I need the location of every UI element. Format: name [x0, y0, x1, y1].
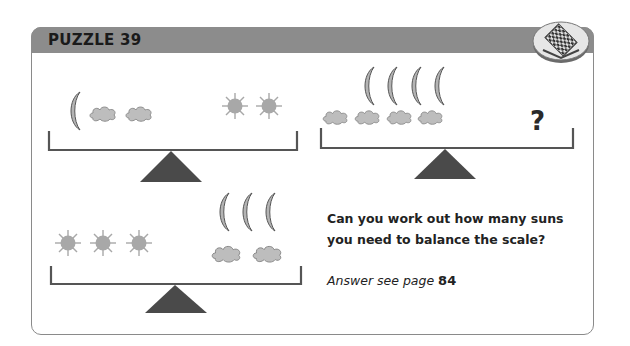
answer-reference: Answer see page 84: [327, 273, 456, 288]
cloud-icon: [355, 111, 379, 124]
cloud-icon: [90, 107, 115, 121]
scale-3: [51, 193, 301, 313]
moon-icon: [266, 193, 275, 231]
cloud-icon: [323, 111, 347, 124]
sun-icon: [55, 230, 81, 256]
cloud-icon: [126, 107, 151, 121]
moon-icon: [435, 67, 444, 105]
cloud-icon: [387, 111, 411, 124]
answer-page-number: 84: [438, 273, 456, 288]
sun-icon: [256, 93, 282, 119]
moon-icon: [412, 67, 421, 105]
sun-icon: [126, 230, 152, 256]
moon-icon: [220, 193, 229, 231]
moon-icon: [365, 67, 374, 105]
puzzle-scales: [0, 0, 630, 346]
moon-icon: [388, 67, 397, 105]
sun-icon: [90, 230, 116, 256]
cloud-icon: [418, 111, 442, 124]
unknown-suns-marker: ?: [530, 106, 545, 136]
answer-prefix: Answer see page: [327, 273, 434, 288]
sun-icon: [222, 93, 248, 119]
cloud-icon: [253, 246, 281, 262]
scale-1: [49, 92, 297, 182]
moon-icon: [243, 193, 252, 231]
cloud-icon: [212, 246, 240, 262]
moon-icon: [71, 92, 80, 130]
puzzle-question: Can you work out how many suns you need …: [327, 208, 577, 250]
